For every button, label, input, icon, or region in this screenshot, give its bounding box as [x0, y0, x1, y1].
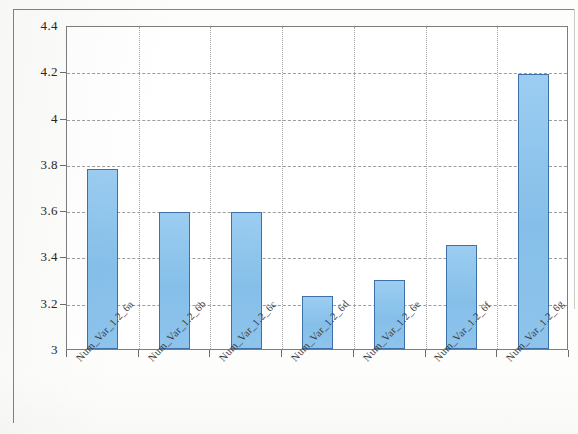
y-tick-label: 3: [0, 342, 58, 358]
gridline-4.2: [67, 73, 567, 74]
x-tick-mark: [138, 350, 139, 357]
x-tick-mark: [425, 350, 426, 357]
category-separator: [426, 27, 427, 349]
y-tick-label: 3.2: [0, 296, 58, 312]
category-separator: [354, 27, 355, 349]
x-tick-mark: [209, 350, 210, 357]
y-tick-label: 3.4: [0, 249, 58, 265]
y-tick-label: 3.8: [0, 157, 58, 173]
x-tick-mark: [281, 350, 282, 357]
category-separator: [497, 27, 498, 349]
plot-inner: [67, 27, 567, 349]
gridline-3.6: [67, 212, 567, 213]
x-tick-mark: [496, 350, 497, 357]
y-tick-label: 3.6: [0, 203, 58, 219]
category-separator: [139, 27, 140, 349]
gridline-3.4: [67, 258, 567, 259]
y-tick-label: 4: [0, 111, 58, 127]
y-tick-label: 4.2: [0, 64, 58, 80]
plot-area: [66, 26, 568, 350]
gridline-4: [67, 120, 567, 121]
gridline-3.8: [67, 166, 567, 167]
x-tick-mark: [66, 350, 67, 357]
y-tick-label: 4.4: [0, 18, 58, 34]
bar: [518, 74, 549, 349]
x-tick-mark: [353, 350, 354, 357]
x-tick-mark: [568, 350, 569, 357]
category-separator: [282, 27, 283, 349]
bar-chart: 33.23.43.63.844.24.4 Num_Var_1.2_6aNum_V…: [0, 0, 578, 434]
scanned-page: 33.23.43.63.844.24.4 Num_Var_1.2_6aNum_V…: [0, 0, 578, 434]
category-separator: [210, 27, 211, 349]
